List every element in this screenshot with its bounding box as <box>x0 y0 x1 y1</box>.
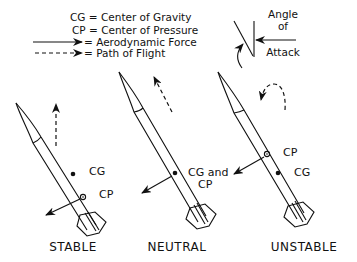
rocket-neutral: CG and CP NEUTRAL <box>119 72 228 254</box>
force-arrow-icon <box>142 176 172 193</box>
label-neutral: NEUTRAL <box>148 240 207 254</box>
rocket-stability-diagram: CG = Center of Gravity CP = Center of Pr… <box>0 0 357 262</box>
label-stable: STABLE <box>49 240 97 254</box>
stable-marker-cp: CP <box>99 188 114 201</box>
legend-path: = Path of Flight <box>84 47 165 59</box>
rocket-unstable: CP CG UNSTABLE <box>218 72 337 254</box>
rocket-stable: CG CP STABLE <box>16 103 114 254</box>
rotation-arrow-icon <box>238 44 243 68</box>
unstable-marker-cg: CG <box>294 166 310 179</box>
label-unstable: UNSTABLE <box>271 240 337 254</box>
aoa-line3: Attack <box>266 46 300 58</box>
legend: CG = Center of Gravity CP = Center of Pr… <box>33 11 198 59</box>
neutral-marker-cp: CP <box>198 178 213 191</box>
flight-path-arrow-icon <box>261 84 285 110</box>
stable-marker-cg: CG <box>89 165 105 178</box>
unstable-marker-cp: CP <box>283 146 298 159</box>
legend-cg: CG = Center of Gravity <box>70 11 191 23</box>
cg-dot-icon <box>71 172 76 177</box>
aoa-line2: of <box>278 20 288 32</box>
force-arrow-icon <box>234 157 264 174</box>
force-arrow-icon <box>46 199 80 215</box>
cg-cp-dot-icon <box>173 171 178 176</box>
cg-dot-icon <box>276 171 281 176</box>
angle-of-attack-figure: Angle of Attack <box>234 8 301 68</box>
rocket-axis-line <box>234 21 253 56</box>
flight-path-arrow-icon <box>154 77 172 112</box>
legend-cp: CP = Center of Pressure <box>72 24 198 36</box>
aoa-line1: Angle <box>268 8 298 20</box>
